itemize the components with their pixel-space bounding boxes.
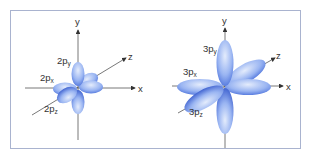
orbital-label-2py: 2py	[57, 56, 71, 68]
orbital-label-2px: 2px	[40, 73, 54, 85]
panel-2p	[25, 30, 135, 140]
orbital-label-3px: 3px	[183, 67, 197, 79]
x-axis-label: x	[138, 84, 143, 94]
y-axis-label: y	[75, 17, 80, 27]
z-axis-label: z	[276, 51, 281, 61]
panel-3p	[172, 28, 283, 148]
y-axis-label: y	[222, 16, 227, 26]
orbital-label-2pz: 2pz	[44, 104, 58, 116]
x-axis-label: x	[286, 82, 291, 92]
z-axis-label: z	[128, 52, 133, 62]
orbital-label-3py: 3py	[203, 44, 217, 56]
orbital-label-3pz: 3pz	[189, 107, 203, 119]
